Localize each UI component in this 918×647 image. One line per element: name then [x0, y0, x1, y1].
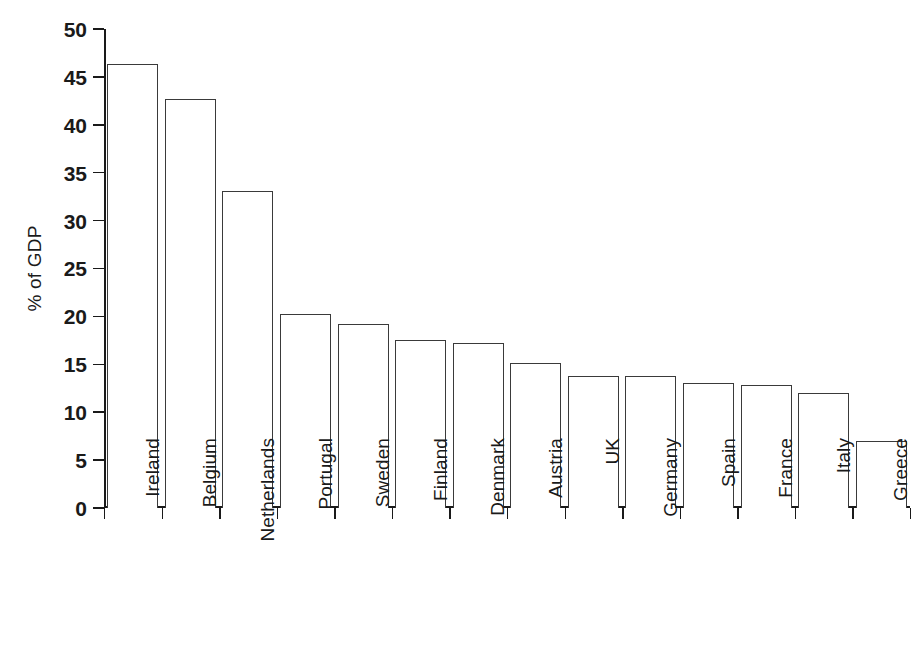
x-tick-label: UK: [603, 438, 623, 638]
y-tick: 50: [93, 28, 104, 30]
plot-area: 05101520253035404550: [104, 29, 910, 508]
x-tick-label: Sweden: [373, 438, 393, 638]
y-tick-label: 20: [64, 306, 87, 327]
y-tick: 30: [93, 220, 104, 222]
y-tick: 45: [93, 76, 104, 78]
y-tick-label: 30: [64, 210, 87, 231]
y-tick-label: 10: [64, 402, 87, 423]
y-tick-label: 5: [75, 450, 87, 471]
y-tick-label: 45: [64, 66, 87, 87]
y-tick-label: 35: [64, 162, 87, 183]
y-axis-title: % of GDP: [20, 29, 50, 508]
y-tick-label: 50: [64, 19, 87, 40]
x-tick-label: France: [776, 438, 796, 638]
bar-chart-figure: % of GDP 05101520253035404550 IrelandBel…: [0, 0, 918, 647]
x-tick-label: Portugal: [316, 438, 336, 638]
y-tick-label: 40: [64, 114, 87, 135]
y-tick: 35: [93, 172, 104, 174]
x-tick-label: Austria: [546, 438, 566, 638]
x-tick-label: Italy: [834, 438, 854, 638]
x-tick-label: Germany: [661, 438, 681, 638]
x-tick-label: Finland: [431, 438, 451, 638]
y-tick: 5: [93, 459, 104, 461]
y-axis-line: [104, 29, 106, 508]
x-tick-label: Spain: [719, 438, 739, 638]
y-tick: 20: [93, 316, 104, 318]
x-tick-label: Denmark: [488, 438, 508, 638]
x-tick-label: Netherlands: [258, 438, 278, 638]
x-tick: [104, 508, 105, 519]
x-axis-labels: IrelandBelgiumNetherlandsPortugalSwedenF…: [104, 520, 910, 647]
y-tick-label: 0: [75, 497, 87, 518]
y-tick: 40: [93, 124, 104, 126]
y-tick-label: 25: [64, 258, 87, 279]
y-tick: 0: [93, 507, 104, 509]
y-tick: 15: [93, 364, 104, 366]
y-tick: 25: [93, 268, 104, 270]
y-tick-label: 15: [64, 354, 87, 375]
x-tick-label: Greece: [891, 438, 911, 638]
y-tick: 10: [93, 411, 104, 413]
x-tick-label: Belgium: [200, 438, 220, 638]
x-tick-label: Ireland: [143, 438, 163, 638]
